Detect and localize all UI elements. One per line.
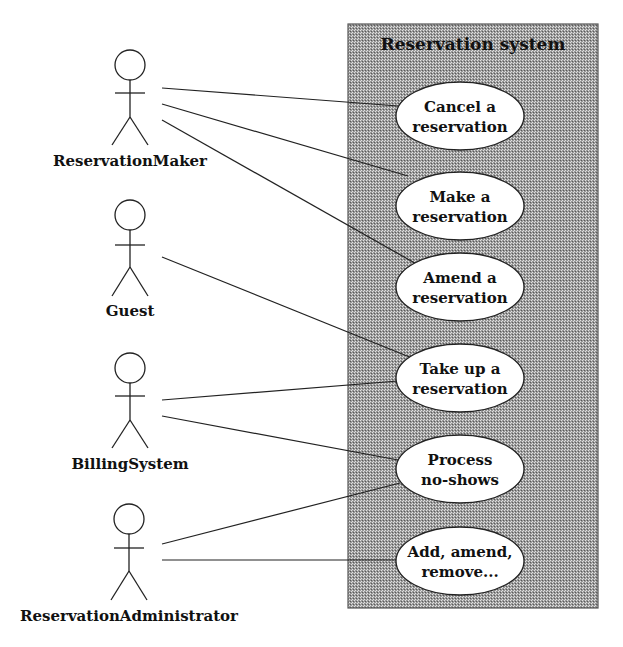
use-case-label-line2: reservation: [412, 289, 507, 307]
use-case-amend-reservation[interactable]: Amend a reservation: [396, 253, 524, 321]
use-case-label-line1: Cancel a: [424, 98, 496, 116]
use-case-add-amend-remove[interactable]: Add, amend, remove...: [396, 527, 524, 595]
stick-figure-icon: [112, 50, 148, 145]
actor-guest[interactable]: Guest: [106, 200, 155, 320]
use-case-label-line1: Add, amend,: [407, 543, 513, 561]
use-case-label-line2: reservation: [412, 380, 507, 398]
use-case-label-line1: Amend a: [422, 269, 497, 287]
stick-figure-icon: [111, 504, 147, 600]
actor-label: Guest: [106, 302, 155, 320]
use-case-ellipse[interactable]: [396, 172, 524, 240]
use-case-process-no-shows[interactable]: Process no-shows: [396, 435, 524, 503]
actor-reservation-maker[interactable]: ReservationMaker: [53, 50, 208, 170]
use-case-ellipse[interactable]: [396, 253, 524, 321]
actors: ReservationMaker Guest BillingSystem: [20, 50, 239, 625]
use-case-take-up-reservation[interactable]: Take up a reservation: [396, 344, 524, 412]
use-case-make-reservation[interactable]: Make a reservation: [396, 172, 524, 240]
stick-figure-icon: [112, 200, 148, 296]
stick-figure-icon: [112, 353, 148, 448]
use-case-ellipse[interactable]: [396, 435, 524, 503]
actor-label: BillingSystem: [71, 455, 188, 473]
actor-reservation-administrator[interactable]: ReservationAdministrator: [20, 504, 239, 625]
use-case-label-line1: Make a: [429, 188, 490, 206]
use-case-label-line1: Take up a: [420, 360, 501, 378]
use-case-diagram: Reservation system Cancel a reservation …: [0, 0, 623, 647]
use-case-label-line2: reservation: [412, 118, 507, 136]
actor-label: ReservationMaker: [53, 152, 208, 170]
use-case-ellipse[interactable]: [396, 344, 524, 412]
actor-label: ReservationAdministrator: [20, 607, 239, 625]
system-title: Reservation system: [381, 34, 566, 54]
use-case-label-line1: Process: [428, 451, 493, 469]
use-case-ellipse[interactable]: [396, 82, 524, 150]
use-case-cancel-reservation[interactable]: Cancel a reservation: [396, 82, 524, 150]
use-case-label-line2: reservation: [412, 208, 507, 226]
actor-billing-system[interactable]: BillingSystem: [71, 353, 188, 473]
use-case-label-line2: no-shows: [421, 471, 499, 489]
use-case-label-line2: remove...: [421, 563, 498, 581]
use-case-ellipse[interactable]: [396, 527, 524, 595]
